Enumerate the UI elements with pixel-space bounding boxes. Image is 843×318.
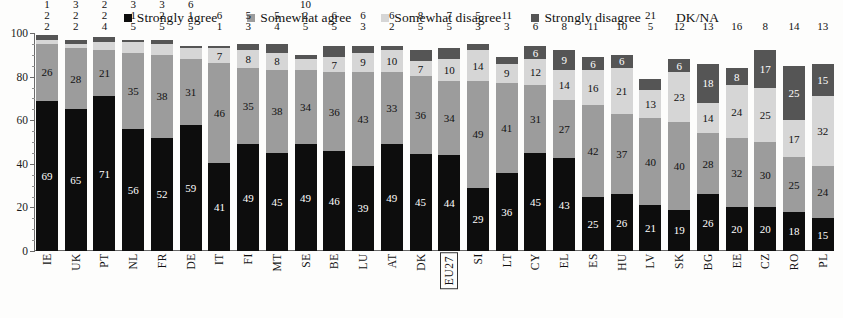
segment-value-label: 7 [208, 50, 230, 61]
bar-segment-somewhat-agree: 21 [93, 50, 115, 96]
bar-column: 8384554 [266, 33, 288, 251]
bar-column: 94136113 [496, 33, 518, 251]
bar-segment-somewhat-agree: 31 [180, 59, 202, 125]
segment-value-label: 8 [726, 71, 748, 82]
bar-column: 14492953 [467, 33, 489, 251]
bar-segment-strongly-agree: 29 [467, 188, 489, 251]
bar-outside-label-stack: 62 [377, 10, 407, 32]
x-axis-label-cy: CY [529, 252, 541, 271]
segment-value-label: 38 [151, 91, 173, 102]
x-axis-label-cell: MT [266, 252, 288, 312]
x-axis-label-dk: DK [415, 252, 427, 272]
stacked-bar-chart: Strongly agreeSomewhat agreeSomewhat dis… [0, 0, 843, 318]
bar-column: 9433963 [352, 33, 374, 251]
x-axis-label-lv: LV [644, 252, 656, 269]
bar-segment-strongly-disagree [410, 50, 432, 61]
bar-outside-label-stack: 113 [492, 10, 522, 32]
bar-segment-somewhat-agree: 24 [812, 166, 834, 218]
x-axis-label-cell: LU [352, 252, 374, 312]
segment-value-label: 4 [262, 21, 292, 32]
bar-segment-somewhat-agree: 46 [208, 63, 230, 162]
y-axis-tick-label: 60 [2, 114, 28, 126]
y-axis-tick-label: 0 [2, 245, 28, 257]
segment-value-label: 36 [496, 206, 518, 217]
segment-value-label: 41 [208, 201, 230, 212]
segment-value-label: 13 [639, 98, 661, 109]
y-axis-tick-label: 100 [2, 27, 28, 39]
bar-segment-strongly-disagree: 6 [524, 46, 546, 59]
x-axis-label-cell: FI [237, 252, 259, 312]
y-axis-tick-mark [30, 120, 35, 121]
bar-segment-strongly-agree: 45 [266, 153, 288, 251]
segment-value-label: 52 [151, 189, 173, 200]
bar-segment-somewhat-agree: 32 [726, 138, 748, 208]
x-axis-label-at: AT [386, 252, 398, 269]
segment-value-label: 35 [122, 85, 144, 96]
bar-column: 61231456 [524, 33, 546, 251]
bar-segment-somewhat-agree: 34 [295, 70, 317, 144]
bar-column: 8354953 [237, 33, 259, 251]
segment-value-label: 44 [438, 198, 460, 209]
segment-value-label: 13 [808, 21, 838, 32]
bar-outside-label-stack: 12 [664, 21, 694, 32]
bar-segment-somewhat-agree: 28 [65, 48, 87, 109]
segment-value-label: 14 [553, 79, 575, 90]
bar-segment-strongly-agree: 21 [639, 205, 661, 251]
x-axis-label-cell: EU27 [438, 252, 460, 312]
bar-segment-somewhat-agree: 30 [754, 142, 776, 207]
x-axis-labels: IEUKPTNLFRDEITFIMTSEBELUATDKEU27SILTCYEL… [36, 252, 834, 312]
x-axis-label-sk: SK [673, 252, 685, 270]
bar-segment-strongly-agree: 45 [410, 154, 432, 251]
bar-segment-somewhat-agree: 36 [323, 72, 345, 150]
segment-value-label: 7 [323, 59, 345, 70]
segment-value-label: 25 [582, 218, 604, 229]
bar-outside-label-stack: 1025 [291, 0, 321, 33]
x-axis-label-eu27: EU27 [440, 252, 458, 289]
x-axis-label-cell: HU [611, 252, 633, 312]
bar-segment-dk-na [783, 35, 805, 66]
plot-area: 020406080100 266912228653222171224355631… [34, 33, 834, 251]
bar-outside-label-stack: 75 [434, 10, 464, 32]
bar-column: 2669122 [36, 33, 58, 251]
bar-outside-label-stack: 53 [463, 10, 493, 32]
y-axis-minor-tick [32, 229, 35, 230]
x-axis-label-cell: BE [323, 252, 345, 312]
y-axis-minor-tick [32, 175, 35, 176]
segment-value-label: 3 [492, 21, 522, 32]
x-axis-label-lt: LT [501, 252, 513, 268]
bar-segment-dk-na [726, 33, 748, 68]
bar-segment-strongly-disagree: 8 [726, 68, 748, 85]
bar-segment-strongly-agree: 43 [553, 158, 575, 251]
segment-value-label: 25 [783, 179, 805, 190]
y-axis-tick-mark [30, 164, 35, 165]
bar-segment-strongly-agree: 44 [438, 155, 460, 251]
segment-value-label: 5 [118, 21, 148, 32]
segment-value-label: 16 [722, 21, 752, 32]
x-axis-label-si: SI [472, 252, 484, 265]
segment-value-label: 26 [36, 67, 58, 78]
bar-segment-dk-na [180, 33, 202, 46]
segment-value-label: 8 [237, 54, 259, 65]
segment-value-label: 7 [410, 63, 432, 74]
x-axis-label-cell: PL [812, 252, 834, 312]
bar-segment-strongly-agree: 49 [381, 144, 403, 251]
segment-value-label: 17 [754, 63, 776, 74]
segment-value-label: 8 [266, 56, 288, 67]
x-axis-label-cell: SK [668, 252, 690, 312]
x-axis-label-pt: PT [98, 252, 110, 269]
x-axis-label-es: ES [587, 252, 599, 269]
bar-column: 10334962 [381, 33, 403, 251]
segment-value-label: 41 [496, 122, 518, 133]
x-axis-label-lu: LU [357, 252, 369, 271]
segment-value-label: 45 [266, 196, 288, 207]
x-axis-label-pl: PL [817, 252, 829, 269]
x-axis-label-nl: NL [127, 252, 139, 271]
bar-segment-dk-na [208, 33, 230, 46]
y-axis-tick-mark [30, 251, 35, 252]
bar-segment-somewhat-disagree: 13 [639, 90, 661, 118]
segment-value-label: 49 [381, 192, 403, 203]
bar-column: 824322016 [726, 33, 748, 251]
bar-column: 1814282613 [697, 33, 719, 251]
bar-outside-label-stack: 325 [147, 0, 177, 33]
bar-segment-strongly-disagree: 6 [582, 57, 604, 70]
